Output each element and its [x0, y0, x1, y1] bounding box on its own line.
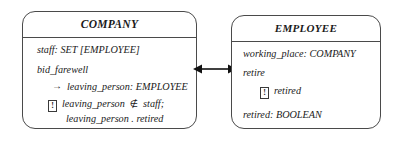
right-arrow-icon: → [52, 81, 62, 92]
class-box-company[interactable]: COMPANY staff: SET [EMPLOYEE] bid_farewe… [22, 11, 197, 129]
operation-bid-farewell: bid_farewell [37, 65, 190, 76]
constraint-expression-suffix: staff; [143, 98, 164, 109]
class-body-employee: working_place: COMPANY retire !retired r… [232, 46, 380, 120]
constraint-row-company: !leaving_person∉staff; [37, 99, 190, 112]
attribute-retired: retired: BOOLEAN [243, 110, 374, 121]
parameter-leaving-person: leaving_person: EMPLOYEE [67, 81, 188, 92]
constraint-row-employee: !retired [243, 86, 374, 99]
not-element-of-icon: ∉ [130, 98, 138, 109]
operation-parameter-row: →leaving_person: EMPLOYEE [37, 82, 190, 93]
class-body-company: staff: SET [EMPLOYEE] bid_farewell →leav… [23, 41, 196, 125]
constraint-expression-retired: retired [274, 85, 301, 96]
operation-retire: retire [243, 68, 374, 79]
association-arrowhead-left [193, 64, 202, 73]
attribute-working-place: working_place: COMPANY [243, 49, 374, 60]
uml-class-diagram: COMPANY staff: SET [EMPLOYEE] bid_farewe… [0, 0, 395, 141]
constraint-expression-second-line: leaving_person . retired [37, 114, 190, 125]
class-title-company: COMPANY [23, 18, 196, 30]
constraint-expression-prefix: leaving_person [62, 98, 125, 109]
exclamation-box-icon: ! [260, 87, 269, 99]
class-divider-company [23, 37, 196, 38]
attribute-staff: staff: SET [EMPLOYEE] [37, 45, 190, 56]
class-title-employee: EMPLOYEE [232, 22, 380, 34]
class-box-employee[interactable]: EMPLOYEE working_place: COMPANY retire !… [231, 15, 381, 129]
class-divider-employee [232, 41, 380, 42]
exclamation-box-icon: ! [48, 100, 57, 112]
